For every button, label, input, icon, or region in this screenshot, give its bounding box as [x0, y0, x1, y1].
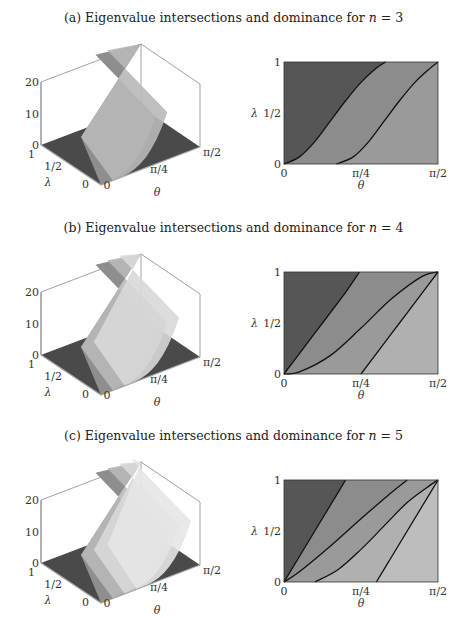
y-axis-label: λ: [250, 525, 258, 538]
x-axis-label: θ: [358, 389, 365, 402]
dominance-2d-plot: 01/21λ0π/4π/2θ: [0, 418, 467, 618]
x-axis-label: θ: [358, 597, 365, 610]
y-tick-label: 1/2: [263, 317, 281, 330]
dominance-regions: [284, 272, 438, 374]
x-axis-label: θ: [358, 179, 365, 192]
panel-a: (a) Eigenvalue intersections and dominan…: [0, 0, 467, 204]
y-axis-label: λ: [250, 107, 258, 120]
panel-c: (c) Eigenvalue intersections and dominan…: [0, 418, 467, 618]
y-tick-label: 1: [274, 56, 281, 69]
x-tick-label: 0: [281, 377, 288, 390]
y-tick-label: 1: [274, 266, 281, 279]
panel-b: (b) Eigenvalue intersections and dominan…: [0, 210, 467, 414]
x-tick-label: π/2: [429, 377, 447, 390]
x-tick-label: 0: [281, 585, 288, 598]
dominance-regions: [284, 480, 438, 582]
x-tick-label: π/2: [429, 167, 447, 180]
y-tick-label: 1/2: [263, 525, 281, 538]
dominance-regions: [284, 62, 438, 164]
x-tick-label: π/2: [429, 585, 447, 598]
dominance-2d-plot: 01/21λ0π/4π/2θ: [0, 210, 467, 414]
dominance-2d-plot: 01/21λ0π/4π/2θ: [0, 0, 467, 204]
y-axis-label: λ: [250, 317, 258, 330]
y-tick-label: 1: [274, 474, 281, 487]
y-tick-label: 1/2: [263, 107, 281, 120]
x-tick-label: 0: [281, 167, 288, 180]
